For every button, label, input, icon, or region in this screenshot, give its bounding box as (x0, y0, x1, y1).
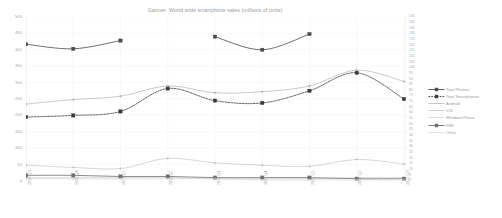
y-tick-label-right: 105 (409, 61, 425, 64)
chart-legend: Total PhonesTotal SmartphonesAndroidiOSW… (428, 86, 500, 136)
y-tick-label-right: 80 (409, 89, 425, 92)
y-tick-label-right: 100 (409, 66, 425, 69)
x-tick-label: 2011 Q2 (169, 171, 173, 185)
y-tick-label-right: 70 (409, 100, 425, 103)
legend-key-total-smartphones (428, 93, 445, 100)
legend-item[interactable]: Other (428, 129, 500, 136)
y-tick-label-right: 40 (409, 134, 425, 137)
legend-key-ios (428, 107, 445, 114)
y-tick-label-left: 500 (2, 15, 22, 19)
y-tick-label-left: 200 (2, 113, 22, 117)
y-tick-label-right: 0 (409, 179, 425, 182)
legend-label: RIM (445, 123, 453, 128)
y-tick-label-right: 145 (409, 15, 425, 18)
legend-key-rim (428, 122, 445, 129)
y-tick-label-right: 75 (409, 94, 425, 97)
y-tick-label-right: 45 (409, 128, 425, 131)
y-tick-label-right: 95 (409, 72, 425, 75)
x-tick-label: 2012 Q2 (358, 170, 362, 185)
x-tick-label: 2010 Q4 (75, 170, 79, 185)
legend-key-android (428, 100, 445, 107)
y-tick-label-left: 50 (2, 163, 22, 167)
y-tick-label-right: 140 (409, 21, 425, 24)
x-tick-label: 2011 Q4 (264, 171, 268, 185)
y-tick-label-right: 20 (409, 157, 425, 160)
chart-svg (26, 17, 406, 181)
y-tick-label-left: 0 (2, 179, 22, 183)
legend-label: Other (445, 130, 456, 135)
y-tick-label-right: 5 (409, 174, 425, 177)
y-tick-label-right: 125 (409, 38, 425, 41)
y-tick-label-left: 150 (2, 130, 22, 134)
x-tick-label: 2012 Q3 (406, 170, 410, 185)
y-tick-label-right: 25 (409, 151, 425, 154)
y-tick-label-right: 10 (409, 168, 425, 171)
y-tick-label-left: 350 (2, 64, 22, 68)
y-tick-label-left: 300 (2, 81, 22, 85)
legend-key-other (428, 129, 445, 136)
chart-container: Gartner: World-wide smartphone sales (mi… (0, 0, 502, 218)
x-tick-label: 2011 Q1 (122, 171, 126, 185)
y-tick-label-right: 120 (409, 44, 425, 47)
legend-label: Windows Phone (445, 115, 475, 120)
legend-item[interactable]: Total Phones (428, 86, 500, 93)
y-tick-label-right: 110 (409, 55, 425, 58)
legend-item[interactable]: Android (428, 100, 500, 107)
y-tick-label-right: 90 (409, 78, 425, 81)
x-tick-label: 2012 Q1 (311, 170, 315, 185)
legend-label: Total Smartphones (445, 94, 479, 99)
y-tick-label-right: 50 (409, 123, 425, 126)
x-tick-label: 2010 Q3 (28, 170, 32, 185)
y-tick-label-left: 100 (2, 146, 22, 150)
y-tick-label-right: 30 (409, 145, 425, 148)
legend-item[interactable]: Total Smartphones (428, 93, 500, 100)
y-tick-label-left: 250 (2, 97, 22, 101)
y-tick-label-right: 65 (409, 106, 425, 109)
y-tick-label-right: 135 (409, 27, 425, 30)
y-tick-label-right: 85 (409, 83, 425, 86)
legend-label: Android (445, 101, 460, 106)
y-tick-label-right: 15 (409, 162, 425, 165)
x-tick-label: 2011 Q3 (217, 171, 221, 185)
y-tick-label-right: 35 (409, 140, 425, 143)
y-tick-label-left: 400 (2, 48, 22, 52)
legend-item[interactable]: iOS (428, 107, 500, 114)
legend-key-total-phones (428, 86, 445, 93)
plot-area (26, 17, 406, 181)
y-tick-label-right: 55 (409, 117, 425, 120)
y-tick-label-left: 450 (2, 31, 22, 35)
legend-label: iOS (445, 108, 453, 113)
legend-key-windows-phone (428, 114, 445, 121)
y-tick-label-right: 130 (409, 32, 425, 35)
y-tick-label-right: 60 (409, 111, 425, 114)
legend-item[interactable]: Windows Phone (428, 114, 500, 121)
chart-title: Gartner: World-wide smartphone sales (mi… (0, 7, 430, 13)
legend-item[interactable]: RIM (428, 121, 500, 128)
legend-label: Total Phones (445, 87, 469, 92)
y-tick-label-right: 115 (409, 49, 425, 52)
